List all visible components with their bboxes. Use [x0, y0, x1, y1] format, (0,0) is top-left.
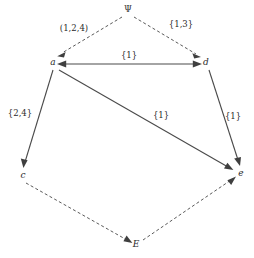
edge-label-a-c: {2,4} [8, 108, 32, 118]
node-label-E: E [132, 239, 140, 249]
arrowhead-psi-a [57, 52, 65, 58]
edge-E-to-e [143, 177, 236, 240]
edge-line-a-e [59, 70, 228, 167]
edge-label-psi-a: (1,2,4) [60, 23, 88, 33]
arrowhead-a-d-right [193, 61, 202, 68]
arrowhead-c-E [123, 236, 132, 243]
arrowhead-psi-d [192, 53, 201, 58]
arrowhead-a-d-left [57, 61, 66, 68]
arrowhead-E-e [227, 177, 236, 185]
edge-a-to-e [59, 70, 233, 170]
node-label-a: a [50, 57, 55, 67]
node-label-e: e [238, 168, 243, 178]
graph-canvas: Ψ a d c e E (1,2,4) {1,3} {1} {2,4} {1} … [0, 0, 254, 258]
node-label-d: d [203, 57, 209, 67]
edge-label-a-e: {1} [153, 110, 169, 120]
edge-label-psi-d: {1,3} [169, 19, 193, 29]
edge-a-to-d [57, 61, 202, 68]
edge-c-to-E [26, 183, 132, 243]
graph-diagram: Ψ a d c e E (1,2,4) {1,3} {1} {2,4} {1} … [0, 0, 254, 258]
node-label-c: c [20, 170, 25, 180]
edge-line-E-e [143, 180, 231, 240]
node-label-psi: Ψ [124, 4, 132, 14]
edge-label-a-d: {1} [121, 50, 137, 60]
arrowhead-a-c [21, 159, 28, 168]
arrowhead-d-e [234, 157, 241, 166]
edge-label-d-e: {1} [225, 111, 241, 121]
edge-a-to-c [21, 70, 53, 168]
arrowhead-a-e [224, 163, 233, 170]
edge-line-c-E [26, 183, 127, 240]
